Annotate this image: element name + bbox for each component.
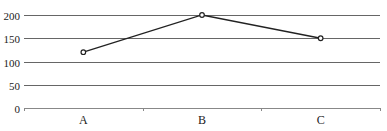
- y-axis-labels: 050100150200: [4, 10, 21, 115]
- y-tick-label: 100: [4, 57, 21, 69]
- data-series: [81, 13, 323, 55]
- x-axis: ABC: [25, 108, 381, 127]
- x-tick-label: C: [317, 113, 325, 127]
- series-line: [83, 15, 320, 52]
- line-chart: 050100150200 ABC: [0, 0, 387, 131]
- data-point-marker: [200, 13, 205, 18]
- y-tick-label: 50: [9, 80, 21, 92]
- y-tick-label: 200: [4, 10, 21, 22]
- y-tick-label: 150: [4, 33, 21, 45]
- x-tick-label: B: [198, 113, 206, 127]
- x-tick-label: A: [79, 113, 88, 127]
- y-tick-label: 0: [15, 103, 21, 115]
- data-point-marker: [81, 50, 86, 55]
- gridlines: [24, 16, 380, 109]
- data-point-marker: [318, 36, 323, 41]
